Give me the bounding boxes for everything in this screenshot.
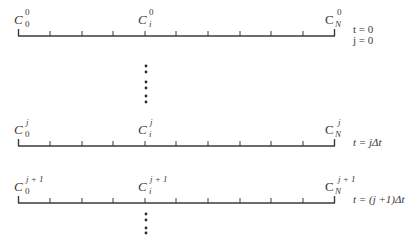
- label-sup: j + 1: [337, 174, 356, 184]
- label-sub: i: [149, 19, 152, 29]
- label-c-n-j1: C: [325, 179, 334, 194]
- label-sub: 0: [25, 19, 30, 29]
- label-sub: 0: [25, 186, 30, 196]
- ticks: [50, 31, 303, 36]
- label-c-i-0: C: [138, 12, 147, 27]
- label-sup: 0: [25, 7, 30, 17]
- label-sup: j + 1: [25, 174, 44, 184]
- grid-row-j: C j 0 C j i C j N t = jΔt: [14, 117, 382, 148]
- grid-row-0: C 0 0 C 0 i C 0 N t = 0 j = 0: [14, 7, 374, 46]
- label-sub: N: [334, 19, 342, 29]
- label-c-n-0: C: [325, 12, 334, 27]
- label-sup: 0: [149, 7, 154, 17]
- ticks: [50, 141, 303, 146]
- label-sub: N: [334, 186, 342, 196]
- label-c-0-0: C: [14, 12, 23, 27]
- label-sup: j: [25, 117, 29, 127]
- vertical-ellipsis-icon: [145, 65, 148, 104]
- label-sub: N: [334, 129, 342, 139]
- label-sub: i: [149, 186, 152, 196]
- label-c-i-j: C: [138, 122, 147, 137]
- vertical-ellipsis-icon: [145, 213, 148, 235]
- label-c-n-j: C: [325, 122, 334, 137]
- label-sup: j + 1: [149, 174, 168, 184]
- label-sub: i: [149, 129, 152, 139]
- label-c-i-j1: C: [138, 179, 147, 194]
- label-c-0-j1: C: [14, 179, 23, 194]
- time-label: t = jΔt: [353, 136, 382, 148]
- label-sup: j: [337, 117, 341, 127]
- index-label: j = 0: [352, 34, 374, 46]
- grid-row-j-plus-1: C j + 1 0 C j + 1 i C j + 1 N t = (j +1)…: [14, 174, 405, 206]
- label-sub: 0: [25, 129, 30, 139]
- ticks: [50, 198, 303, 203]
- label-c-0-j: C: [14, 122, 23, 137]
- label-sup: j: [149, 117, 153, 127]
- grid-diagram: C 0 0 C 0 i C 0 N t = 0 j = 0 C j 0 C j: [0, 0, 420, 246]
- time-label: t = (j +1)Δt: [353, 193, 405, 206]
- label-sup: 0: [337, 7, 342, 17]
